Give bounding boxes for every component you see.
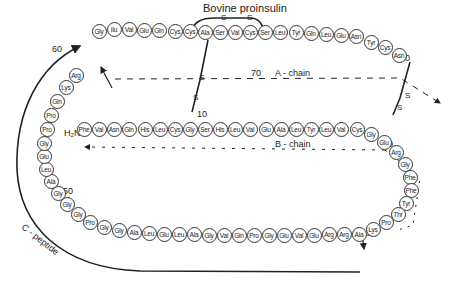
sulfur-label: S (221, 13, 226, 22)
residue-number-70: 70 (251, 68, 261, 78)
a-chain-residue-19: Tyr (364, 35, 379, 50)
b-chain-residue-17: Leu (319, 122, 334, 137)
b-chain-residue-2: Val (92, 122, 107, 137)
a-chain-residue-12: Ser (258, 25, 273, 40)
c-peptide-residue-13: Glu (157, 227, 172, 242)
a-chain-residue-7: Cys (183, 24, 198, 39)
a-chain-residue-13: Leu (273, 25, 288, 40)
a-chain-residue-20: Cys (378, 40, 393, 55)
c-peptide-residue-30: Arg (69, 68, 84, 83)
c-peptide-residue-29: Lys (59, 80, 74, 95)
c-peptide-residue-27: Pro (44, 108, 59, 123)
c-peptide-residue-7: Pro (247, 228, 262, 243)
a-chain-residue-9: Ser (213, 25, 228, 40)
c-peptide-residue-1: Arg (337, 227, 352, 242)
c-peptide-residue-2: Arg (322, 227, 337, 242)
b-chain-residue-16: Tyr (304, 122, 319, 137)
b-chain-residue-18: Val (334, 122, 349, 137)
c-peptide-residue-28: Gln (50, 94, 65, 109)
b-chain-residue-12: Val (243, 122, 258, 137)
b-chain-residue-5: His (138, 122, 153, 137)
a-chain-residue-6: Cys (168, 24, 183, 39)
b-chain-residue-4: Gln (122, 122, 137, 137)
a-chain-residue-16: Leu (319, 27, 334, 42)
c-peptide-residue-16: Gly (112, 223, 127, 238)
b-chain-label: B - chain (275, 139, 311, 149)
sulfur-label: S (247, 13, 252, 22)
sulfur-label: S (405, 91, 410, 100)
b-chain-residue-7: Cys (168, 122, 183, 137)
c-peptide-residue-9: Val (217, 228, 232, 243)
a-chain-residue-5: Gln (152, 23, 167, 38)
c-peptide-residue-6: Gly (262, 228, 277, 243)
c-peptide-residue-24: Glu (37, 149, 52, 164)
c-peptide-residue-10: Gly (202, 228, 217, 243)
c-peptide-residue-15: Ala (127, 225, 142, 240)
a-chain-residue-8: Ala (198, 25, 213, 40)
c-peptide-residue-8: Gln (232, 228, 247, 243)
b-chain-residue-28: Pro (379, 215, 394, 230)
b-chain-residue-3: Asn (107, 122, 122, 137)
c-peptide-residue-17: Gly (97, 220, 112, 235)
a-chain-residue-15: Gln (304, 26, 319, 41)
b-chain-residue-29: Lys (366, 222, 381, 237)
a-chain-label: A - chain (275, 68, 310, 78)
a-chain-residue-18: Asn (349, 29, 364, 44)
c-peptide-residue-3: Glu (307, 228, 322, 243)
c-peptide-residue-23: Leu (39, 162, 54, 177)
b-chain-residue-8: Gly (183, 122, 198, 137)
a-chain-residue-1: Gly (92, 24, 107, 39)
c-peptide-residue-25: Gly (37, 136, 52, 151)
a-chain-residue-17: Glu (334, 28, 349, 43)
sulfur-label: S (199, 73, 204, 82)
a-chain-residue-14: Tyr (289, 25, 304, 40)
a-chain-residue-4: Glu (137, 23, 152, 38)
a-chain-residue-10: Val (228, 25, 243, 40)
c-peptide-residue-12: Leu (172, 227, 187, 242)
sulfur-label: S (397, 103, 402, 112)
a-chain-residue-2: Ilu (107, 22, 122, 37)
a-chain-residue-3: Val (122, 22, 137, 37)
proinsulin-diagram: Bovine proinsulin S S S S S S 60 70 A - … (0, 0, 457, 284)
b-chain-residue-13: Glu (259, 122, 274, 137)
c-peptide-residue-14: Leu (142, 226, 157, 241)
a-chain-residue-11: Cys (243, 25, 258, 40)
c-peptide-residue-4: Val (292, 228, 307, 243)
b-chain-residue-21: Glu (377, 135, 392, 150)
b-chain-residue-19: Cys (350, 122, 365, 137)
b-chain-residue-15: Leu (289, 122, 304, 137)
b-chain-residue-1: Phe (77, 122, 92, 137)
b-chain-residue-10: His (213, 122, 228, 137)
diagram-title: Bovine proinsulin (203, 2, 287, 14)
b-chain-residue-11: Leu (228, 122, 243, 137)
b-chain-residue-9: Ser (198, 122, 213, 137)
a-chain-residue-21: Asn (392, 48, 407, 63)
b-chain-residue-20: Gly (364, 127, 379, 142)
sulfur-label: S (193, 93, 198, 102)
b-chain-residue-6: Leu (153, 122, 168, 137)
c-peptide-residue-11: Ala (187, 227, 202, 242)
residue-number-10: 10 (197, 109, 207, 119)
c-peptide-residue-26: Pro (40, 122, 55, 137)
b-chain-residue-14: Ala (274, 122, 289, 137)
residue-number-60: 60 (52, 44, 62, 54)
c-peptide-residue-5: Glu (277, 228, 292, 243)
b-chain-residue-30: Ala (352, 227, 367, 242)
